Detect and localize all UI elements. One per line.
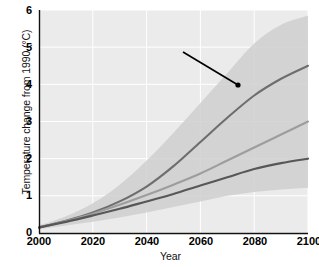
climate-projection-chart: Temperature change from 1990 (°C) 6 5 4 … (0, 0, 319, 267)
chart-svg (0, 0, 319, 267)
plot-area (39, 10, 308, 234)
arrow-head-dot (235, 82, 240, 87)
